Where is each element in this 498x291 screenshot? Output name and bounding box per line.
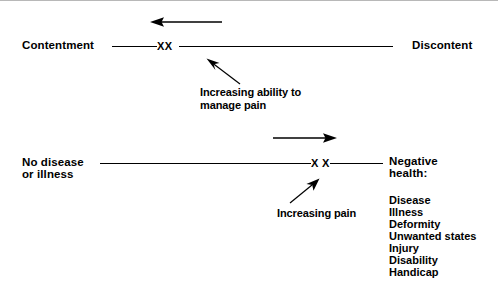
list-item: Handicap bbox=[389, 267, 439, 278]
right-arrow-icon bbox=[273, 133, 337, 143]
top-scale-markers: XX bbox=[157, 40, 172, 52]
list-item: Unwanted states bbox=[389, 231, 476, 242]
bottom-scale-left-label-line1: No disease bbox=[22, 157, 84, 169]
up-right-arrow-icon bbox=[290, 179, 320, 204]
list-item: Deformity bbox=[389, 219, 440, 230]
list-item: Disease bbox=[389, 195, 431, 206]
top-scale-left-label: Contentment bbox=[22, 40, 94, 52]
top-annotation-line1: Increasing ability to bbox=[200, 87, 301, 99]
top-scale-right-label: Discontent bbox=[412, 40, 472, 52]
list-item: Illness bbox=[389, 207, 423, 218]
bottom-scale-right-label-line2: health: bbox=[389, 168, 427, 180]
up-left-arrow-icon bbox=[207, 59, 241, 85]
bottom-scale-markers: X X bbox=[311, 157, 330, 169]
list-item: Injury bbox=[389, 243, 419, 254]
bottom-scale-right-label-line1: Negative bbox=[389, 156, 438, 168]
bottom-scale-left-label-line2: or illness bbox=[22, 169, 74, 181]
bottom-annotation: Increasing pain bbox=[277, 208, 356, 220]
list-item: Disability bbox=[389, 255, 438, 266]
diagram-canvas: Contentment XX Discontent Increasing abi… bbox=[0, 0, 498, 291]
top-annotation-line2: manage pain bbox=[200, 100, 266, 112]
left-arrow-icon bbox=[150, 17, 222, 27]
